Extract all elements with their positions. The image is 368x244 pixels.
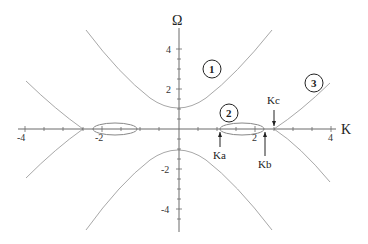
region-3-marker: 3 <box>305 74 323 92</box>
left-lower-branch-curve <box>26 129 83 178</box>
y-axis-label: Ω <box>172 13 182 28</box>
right-upper-branch-curve <box>274 83 330 129</box>
right-lower-branch-curve <box>274 129 330 182</box>
dispersion-diagram: -4 -2 2 4 4 2 -2 -4 Ω K 1 2 3 Ka Kb Kc <box>0 0 368 244</box>
x-tick-label: -2 <box>95 132 103 143</box>
svg-text:1: 1 <box>209 63 215 75</box>
region-1-marker: 1 <box>203 60 221 78</box>
svg-text:2: 2 <box>226 107 232 119</box>
y-tick-label: -4 <box>161 204 169 215</box>
kc-annotation: Kc <box>267 94 280 126</box>
region-2-marker: 2 <box>220 104 238 122</box>
x-tick-label: 4 <box>328 132 333 143</box>
svg-text:3: 3 <box>311 77 317 89</box>
svg-text:Kc: Kc <box>267 94 280 106</box>
x-tick-label: -4 <box>17 132 25 143</box>
ka-annotation: Ka <box>213 132 226 161</box>
svg-text:Kb: Kb <box>258 158 272 170</box>
x-tick-label: 2 <box>252 132 257 143</box>
x-axis-label: K <box>341 122 351 137</box>
y-tick-label: -2 <box>161 164 169 175</box>
left-upper-branch-curve <box>26 81 83 129</box>
y-tick-label: 4 <box>166 44 171 55</box>
svg-text:Ka: Ka <box>213 149 226 161</box>
kb-annotation: Kb <box>258 132 272 170</box>
y-tick-label: 2 <box>166 84 171 95</box>
